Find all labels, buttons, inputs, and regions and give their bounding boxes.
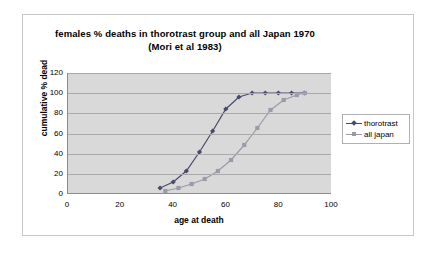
y-tick-label: 40 [37, 150, 63, 158]
chart-title-line2: (Mori et al 1983) [35, 40, 335, 53]
x-tick-label: 20 [105, 201, 135, 209]
legend-label: all japan [363, 130, 394, 139]
x-tick-label: 60 [210, 201, 240, 209]
x-tick-label: 0 [52, 201, 82, 209]
chart-title-line1: females % deaths in thorotrast group and… [55, 28, 315, 39]
y-axis-tick-labels: 020406080100120 [33, 73, 63, 194]
gridline [68, 174, 331, 175]
chart-frame: females % deaths in thorotrast group and… [22, 14, 414, 236]
legend-label: thorotrast [363, 119, 398, 128]
chart-legend: thorotrastall japan [342, 114, 410, 144]
legend-item-thorotrast[interactable]: thorotrast [345, 118, 407, 129]
legend-marker-icon [345, 130, 363, 139]
gridline [68, 73, 331, 74]
y-tick-label: 60 [37, 130, 63, 138]
data-point [163, 189, 167, 193]
data-point [190, 182, 194, 186]
x-tick-label: 100 [316, 201, 346, 209]
data-point [242, 143, 246, 147]
data-point [176, 186, 180, 190]
x-axis-tick-labels: 020406080100 [67, 201, 331, 213]
y-tick-label: 0 [37, 190, 63, 198]
x-tick-label: 40 [158, 201, 188, 209]
data-point [203, 177, 207, 181]
data-point [216, 169, 220, 173]
plot-area [67, 73, 331, 194]
data-point [268, 108, 272, 112]
data-point [157, 185, 162, 190]
gridline [68, 113, 331, 114]
x-axis-title: age at death [67, 215, 331, 225]
legend-marker-icon [345, 119, 363, 128]
y-tick-label: 80 [37, 109, 63, 117]
data-point [282, 98, 286, 102]
gridline [68, 154, 331, 155]
gridline [68, 93, 331, 94]
x-tick-label: 80 [263, 201, 293, 209]
plot-series-svg [68, 73, 331, 193]
series-line-all-japan [165, 93, 304, 191]
data-point [255, 126, 259, 130]
y-tick-label: 20 [37, 170, 63, 178]
y-tick-label: 100 [37, 89, 63, 97]
chart-title: females % deaths in thorotrast group and… [35, 27, 335, 53]
legend-item-all-japan[interactable]: all japan [345, 129, 407, 140]
y-tick-label: 120 [37, 69, 63, 77]
data-point [229, 158, 233, 162]
gridline [68, 134, 331, 135]
